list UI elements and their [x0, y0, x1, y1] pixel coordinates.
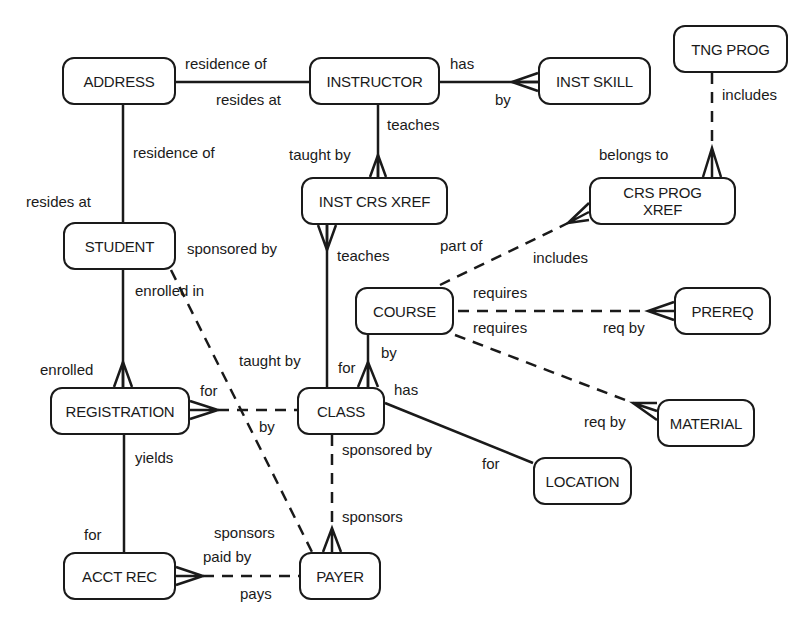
label-residence-of: residence of	[185, 55, 267, 72]
entity-inst-crs-xref[interactable]: INST CRS XREF	[301, 177, 448, 225]
label-has: has	[450, 55, 474, 72]
label-paid-by: paid by	[203, 548, 251, 565]
entity-label: ADDRESS	[83, 73, 154, 90]
crowfoot-crsprog-left	[568, 203, 589, 223]
label-requires: requires	[473, 319, 527, 336]
entity-location[interactable]: LOCATION	[533, 457, 632, 505]
entity-label: MATERIAL	[670, 415, 742, 432]
label-for: for	[338, 359, 356, 376]
label-for: for	[84, 526, 102, 543]
label-sponsored-by: sponsored by	[187, 240, 277, 257]
entity-label: ACCT REC	[82, 568, 157, 585]
crowfoot-acctrec	[176, 567, 203, 585]
dash-course-material	[455, 335, 633, 403]
label-teaches: teaches	[337, 247, 390, 264]
label-taught-by: taught by	[239, 352, 301, 369]
label-req-by: req by	[584, 413, 626, 430]
entity-payer[interactable]: PAYER	[299, 552, 381, 600]
label-has: has	[394, 381, 418, 398]
crowfoot-payer-top	[323, 528, 341, 552]
label-includes: includes	[533, 249, 588, 266]
crowfoot-xref-top	[370, 155, 386, 177]
entity-label: PAYER	[316, 568, 364, 585]
entity-label: LOCATION	[546, 473, 620, 490]
label-by: by	[259, 418, 275, 435]
label-resides-at: resides at	[216, 91, 281, 108]
label-by: by	[495, 91, 511, 108]
label-sponsors: sponsors	[214, 524, 275, 541]
entity-label: INSTRUCTOR	[326, 73, 422, 90]
crowfoot-registration-right	[190, 401, 218, 419]
label-for: for	[482, 455, 500, 472]
crowfoot-registration	[114, 362, 132, 387]
entity-material[interactable]: MATERIAL	[657, 399, 755, 447]
label-enrolled-in: enrolled in	[135, 282, 204, 299]
entity-label: INST SKILL	[556, 73, 633, 90]
label-by: by	[381, 344, 397, 361]
label-belongs-to: belongs to	[599, 146, 668, 163]
label-sponsored-by: sponsored by	[342, 441, 432, 458]
label-req-by: req by	[603, 319, 645, 336]
entity-acct-rec[interactable]: ACCT REC	[63, 552, 176, 600]
label-pays: pays	[240, 585, 272, 602]
label-includes: includes	[722, 86, 777, 103]
label-enrolled: enrolled	[40, 361, 93, 378]
entity-prereq[interactable]: PREREQ	[674, 287, 771, 335]
entity-student[interactable]: STUDENT	[63, 222, 176, 270]
entity-label: REGISTRATION	[66, 403, 175, 420]
entity-label: INST CRS XREF	[319, 193, 430, 210]
entity-address[interactable]: ADDRESS	[62, 57, 176, 105]
entity-label: COURSE	[373, 303, 436, 320]
label-part-of: part of	[440, 237, 483, 254]
label-sponsors: sponsors	[342, 508, 403, 525]
entity-registration[interactable]: REGISTRATION	[50, 387, 190, 435]
entity-inst-skill[interactable]: INST SKILL	[538, 57, 651, 105]
crowfoot-material	[633, 403, 657, 420]
label-for: for	[200, 382, 218, 399]
er-diagram: ADDRESS INSTRUCTOR INST SKILL TNG PROG I…	[0, 0, 812, 638]
crowfoot-xref-bottom	[318, 225, 336, 250]
entity-label: PREREQ	[691, 303, 753, 320]
label-taught-by: taught by	[289, 146, 351, 163]
entity-label: CLASS	[317, 403, 365, 420]
label-teaches: teaches	[387, 116, 440, 133]
label-requires: requires	[473, 284, 527, 301]
crowfoot-class-top	[358, 362, 378, 387]
crowfoot-crsprog-top	[703, 148, 721, 177]
entity-course[interactable]: COURSE	[355, 287, 454, 335]
label-yields: yields	[135, 449, 173, 466]
label-residence-of: residence of	[133, 144, 215, 161]
entity-label: STUDENT	[85, 238, 154, 255]
crowfoot-instskill	[512, 73, 538, 91]
entity-label: TNG PROG	[691, 41, 769, 58]
entity-class[interactable]: CLASS	[297, 387, 385, 435]
entity-label: CRS PROG XREF	[619, 184, 706, 218]
entity-tng-prog[interactable]: TNG PROG	[673, 25, 788, 73]
crowfoot-prereq	[648, 302, 674, 320]
entity-crs-prog-xref[interactable]: CRS PROG XREF	[589, 177, 736, 225]
label-resides-at: resides at	[26, 193, 91, 210]
entity-instructor[interactable]: INSTRUCTOR	[309, 57, 440, 105]
